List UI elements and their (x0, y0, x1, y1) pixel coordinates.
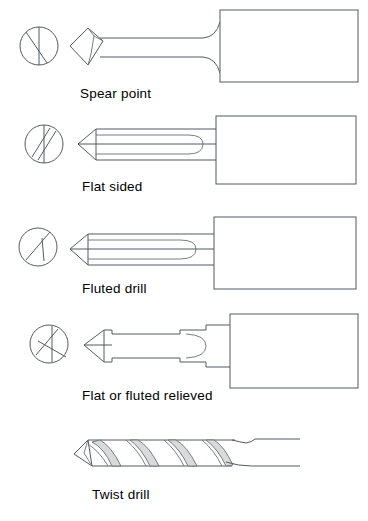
flat-sided-body (78, 129, 216, 160)
caption-twist-drill: Twist drill (92, 487, 150, 502)
relieved-body-outline (84, 325, 230, 367)
twist-drill-shank (226, 439, 300, 466)
flat-sided-diagram (0, 104, 368, 196)
relieved-flute-end (186, 334, 206, 358)
fluted-drill-diagram (0, 205, 368, 297)
circle-crossed-diagonals-icon (30, 325, 68, 363)
circle-diagonal-with-branch-icon (19, 228, 57, 266)
spear-point-shank-body (220, 10, 358, 82)
relieved-point (84, 330, 104, 362)
flat-sided-shank-body (216, 116, 356, 184)
spear-point-shank-neck (100, 22, 220, 73)
caption-fluted-drill: Fluted drill (82, 281, 147, 296)
drill-point-figure: Spear point F (0, 0, 368, 521)
spear-point-tip (70, 28, 103, 65)
caption-flat-sided: Flat sided (82, 179, 143, 194)
spear-point-diagram (0, 0, 368, 100)
drill-row-spear-point (0, 0, 368, 100)
circle-two-parallel-diagonals-icon (25, 125, 63, 163)
twist-drill-diagram (0, 422, 368, 482)
twist-drill-flutes (88, 440, 233, 466)
relieved-shank-body (230, 314, 358, 388)
fluted-drill-shank-body (214, 217, 356, 289)
drill-row-twist-drill (0, 422, 368, 482)
fluted-drill-body (70, 234, 214, 265)
twist-drill-point (74, 440, 92, 466)
circle-vertical-diagonal-icon (20, 27, 58, 65)
drill-row-flat-sided (0, 104, 368, 196)
caption-spear-point: Spear point (80, 86, 151, 101)
drill-row-fluted-drill (0, 205, 368, 297)
caption-flat-or-fluted-relieved: Flat or fluted relieved (82, 388, 213, 403)
